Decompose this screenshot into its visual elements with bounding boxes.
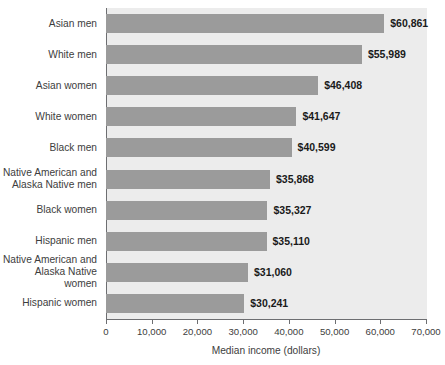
x-tick-label: 30,000 (228, 326, 257, 337)
x-tick (106, 319, 107, 324)
x-tick-label: 0 (103, 326, 108, 337)
bar (106, 45, 362, 64)
category-label: Black women (0, 195, 101, 226)
bar-row: $35,868 (106, 164, 426, 195)
bar-value-label: $55,989 (362, 45, 406, 64)
bar-value-label: $30,241 (244, 294, 288, 313)
category-label: White men (0, 39, 101, 70)
x-tick-label: 20,000 (183, 326, 212, 337)
bar (106, 263, 248, 282)
category-label-text: White women (35, 111, 101, 123)
category-label-text: Hispanic women (22, 297, 101, 309)
bar (106, 138, 292, 157)
bar-row: $41,647 (106, 101, 426, 132)
x-tick-label: 10,000 (137, 326, 166, 337)
category-label-text: Asian men (49, 18, 101, 30)
bar-value-label: $40,599 (292, 138, 336, 157)
category-label: Hispanic men (0, 226, 101, 257)
x-tick-label: 40,000 (274, 326, 303, 337)
bar-value-label: $35,327 (267, 201, 311, 220)
bar-value-label: $31,060 (248, 263, 292, 282)
x-tick (380, 319, 381, 324)
bar (106, 170, 270, 189)
category-label-text: Asian women (36, 80, 101, 92)
category-label-text: White men (48, 49, 101, 61)
x-axis-line (106, 319, 426, 320)
bar-value-label: $46,408 (318, 76, 362, 95)
x-tick (335, 319, 336, 324)
bar (106, 294, 244, 313)
x-tick-label: 50,000 (320, 326, 349, 337)
category-label: Hispanic women (0, 288, 101, 319)
bar-value-label: $35,110 (267, 232, 310, 251)
category-label-text: Black women (36, 204, 101, 216)
bar (106, 232, 267, 251)
bar (106, 14, 384, 33)
bar-row: $40,599 (106, 132, 426, 163)
x-tick (243, 319, 244, 324)
bar-value-label: $35,868 (270, 170, 314, 189)
bar-row: $46,408 (106, 70, 426, 101)
bar-chart: $60,861$55,989$46,408$41,647$40,599$35,8… (0, 0, 445, 365)
bar-row: $31,060 (106, 257, 426, 288)
x-tick (152, 319, 153, 324)
category-label-text: Native American and Alaska Native men (3, 167, 101, 191)
category-label: Native American and Alaska Native women (0, 257, 101, 288)
x-axis-title: Median income (dollars) (106, 345, 426, 356)
bar-value-label: $60,861 (384, 14, 428, 33)
bar (106, 76, 318, 95)
category-label: Asian women (0, 70, 101, 101)
x-tick (197, 319, 198, 324)
x-tick-label: 60,000 (366, 326, 395, 337)
bar-row: $35,110 (106, 226, 426, 257)
category-label-text: Hispanic men (35, 235, 101, 247)
bar-row: $60,861 (106, 8, 426, 39)
category-label-text: Black men (49, 142, 101, 154)
bar-row: $55,989 (106, 39, 426, 70)
bar-value-label: $41,647 (296, 107, 340, 126)
category-label: Native American and Alaska Native men (0, 164, 101, 195)
bar-row: $35,327 (106, 195, 426, 226)
bar (106, 201, 267, 220)
category-label: White women (0, 101, 101, 132)
bar-row: $30,241 (106, 288, 426, 319)
bar (106, 107, 296, 126)
x-tick (426, 319, 427, 324)
category-label-text: Native American and Alaska Native women (0, 254, 101, 290)
x-tick-label: 70,000 (411, 326, 440, 337)
category-label: Asian men (0, 8, 101, 39)
x-tick (289, 319, 290, 324)
category-label: Black men (0, 132, 101, 163)
